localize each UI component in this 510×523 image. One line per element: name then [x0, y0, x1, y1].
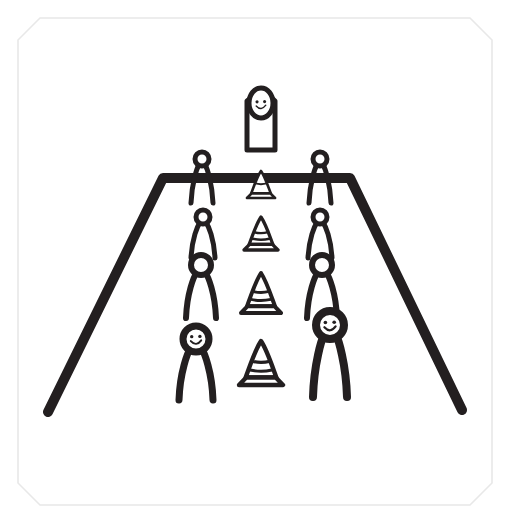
cone-ring: [252, 361, 270, 362]
player-head: [313, 152, 327, 166]
player-head: [312, 255, 332, 275]
drawing-root: [0, 0, 510, 523]
face-eye-left: [190, 335, 193, 338]
player-head: [316, 311, 344, 339]
cone-ring: [250, 370, 272, 371]
face-eye-right: [198, 335, 201, 338]
illustration-canvas: Cone slalom relay drill A coach stands a…: [0, 0, 510, 523]
face-eye-right: [332, 320, 336, 324]
face-eye-left: [255, 100, 258, 103]
cone-ring: [254, 232, 268, 233]
cone-ring: [253, 291, 269, 292]
artboard: [0, 0, 510, 523]
cone-ring: [253, 239, 270, 240]
cone-base: [247, 193, 275, 198]
player-head: [195, 152, 209, 166]
cone-ring: [251, 299, 271, 300]
cone-base: [241, 306, 281, 313]
cone-ring: [255, 183, 266, 184]
cone-base: [239, 378, 283, 385]
player-head: [313, 210, 327, 224]
player-head: [196, 210, 210, 224]
background: [0, 0, 510, 523]
cone-base: [244, 244, 278, 250]
coach-figure[interactable]: [247, 88, 275, 150]
coach-head: [249, 88, 273, 118]
player-head: [191, 255, 211, 275]
face-eye-left: [324, 321, 328, 325]
face-eye-right: [263, 100, 266, 103]
player-head: [183, 326, 209, 352]
